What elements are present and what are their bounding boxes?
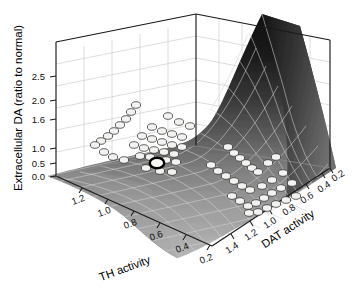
data-point (167, 169, 176, 176)
data-point (121, 116, 130, 123)
y-tick-label: 1.4 (223, 239, 240, 255)
data-point (245, 187, 254, 194)
z-tick-label: 2.5 (32, 71, 45, 82)
data-point (271, 154, 280, 161)
data-point (213, 168, 222, 175)
data-point (253, 209, 262, 216)
data-point (103, 133, 112, 140)
data-point (185, 123, 194, 130)
data-point (99, 149, 108, 156)
plot-canvas: 2.5 2.0 1.6 1.0 0.5 0.0 1.2 1.0 0.8 0.6 … (0, 0, 359, 294)
data-point (221, 173, 230, 180)
y-tick-label: 1.0 (261, 214, 278, 230)
data-point (287, 180, 296, 187)
data-point (244, 210, 253, 217)
data-point (253, 169, 262, 176)
z-tick-labels: 2.5 2.0 1.6 1.0 0.5 0.0 (32, 71, 45, 182)
data-point (276, 185, 285, 192)
data-point (223, 144, 232, 151)
y-tick-label: 0.8 (280, 201, 297, 217)
x-axis-title: TH activity (97, 253, 152, 283)
data-point (171, 159, 180, 166)
data-point (167, 142, 176, 149)
data-point (129, 142, 138, 149)
z-tick-label: 1.6 (32, 114, 45, 125)
y-tick-label: 0.4 (315, 178, 332, 194)
x-tick-label: 0.2 (198, 251, 214, 266)
data-point (263, 160, 272, 167)
z-tick-label: 1.0 (32, 143, 45, 154)
data-point (267, 177, 276, 184)
data-point (267, 190, 276, 197)
data-point (126, 109, 135, 116)
data-point (177, 144, 186, 151)
z-tick-label: 0.0 (32, 171, 45, 182)
data-point (271, 201, 280, 208)
data-point (227, 193, 236, 200)
data-point (159, 149, 168, 156)
data-point (251, 200, 260, 207)
data-point (131, 102, 140, 109)
data-point (167, 131, 176, 138)
z-tick-marks (50, 76, 56, 177)
data-point (257, 183, 266, 190)
data-point (262, 205, 271, 212)
data-point (169, 151, 178, 158)
surface-plot-figure: 2.5 2.0 1.6 1.0 0.5 0.0 1.2 1.0 0.8 0.6 … (0, 0, 359, 294)
data-point (119, 157, 128, 164)
y-tick-label: 1.2 (242, 226, 259, 242)
baseline-highlight-marker (150, 158, 164, 168)
x-tick-label: 1.2 (70, 192, 86, 207)
data-point (163, 113, 172, 120)
data-point (147, 124, 156, 131)
data-point (90, 142, 99, 149)
data-point (141, 165, 150, 172)
data-point (177, 134, 186, 141)
data-point (108, 154, 117, 161)
data-point (278, 170, 287, 177)
data-point (174, 119, 183, 126)
data-point (259, 195, 268, 202)
data-point (147, 136, 156, 143)
z-tick-label: 0.5 (32, 158, 45, 169)
data-point (237, 183, 246, 190)
z-axis-title: Extracellular DA (ratio to normal) (12, 25, 24, 191)
data-point (149, 147, 158, 154)
data-point (235, 198, 244, 205)
data-point (206, 162, 215, 169)
z-tick-label: 2.0 (32, 95, 45, 106)
data-point (115, 122, 124, 129)
data-point (229, 178, 238, 185)
data-point (157, 128, 166, 135)
data-point (157, 139, 166, 146)
data-point (139, 145, 148, 152)
data-point (135, 153, 144, 160)
data-point (137, 133, 146, 140)
